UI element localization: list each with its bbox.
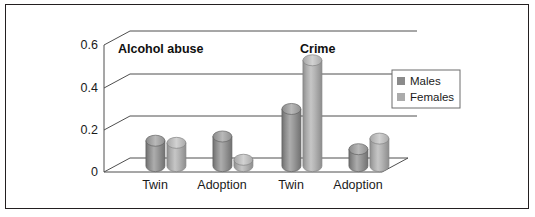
bar-cap: [349, 144, 368, 155]
gridline-0-2: [104, 116, 417, 130]
legend-swatch-males: [397, 77, 405, 85]
legend-label-females: Females: [410, 91, 454, 103]
bar-females-3: [370, 133, 389, 172]
bar-cap: [146, 135, 165, 146]
chart-figure: 0 0.2 0.4 0.6 Alcohol abuse Crime Twin A…: [0, 0, 535, 217]
bar-males-1: [213, 131, 232, 172]
y-axis-labels: 0 0.2 0.4 0.6: [81, 38, 98, 179]
annotation-alcohol-abuse: Alcohol abuse: [118, 42, 203, 56]
legend-label-males: Males: [410, 75, 441, 87]
group-annotations: Alcohol abuse Crime: [118, 42, 335, 56]
bar-males-3: [349, 144, 368, 172]
x-tick-1: Adoption: [197, 178, 246, 192]
bar-chart-canvas: 0 0.2 0.4 0.6 Alcohol abuse Crime Twin A…: [0, 0, 535, 217]
y-tick-0-2: 0.2: [81, 123, 98, 137]
bar-cap: [282, 103, 301, 114]
y-tick-0-4: 0.4: [81, 81, 98, 95]
x-tick-3: Adoption: [333, 178, 382, 192]
bar-cap: [213, 131, 232, 142]
bar-body: [303, 60, 322, 171]
bar-cap: [167, 137, 186, 148]
x-tick-2: Twin: [278, 178, 304, 192]
bar-females-0: [167, 137, 186, 171]
y-tick-0-6: 0.6: [81, 38, 98, 52]
x-axis-labels: Twin Adoption Twin Adoption: [142, 178, 383, 192]
bar-females-1: [234, 154, 253, 171]
legend-swatch-females: [397, 93, 405, 101]
legend: Males Females: [392, 70, 460, 108]
annotation-crime: Crime: [300, 42, 335, 56]
gridline-0-4: [104, 74, 417, 88]
bar-cap: [234, 154, 253, 165]
bar-body: [282, 109, 301, 172]
y-tick-0: 0: [91, 165, 98, 179]
bar-cap: [303, 55, 322, 66]
x-tick-0: Twin: [142, 178, 168, 192]
bar-females-2: [303, 55, 322, 172]
bar-males-0: [146, 135, 165, 171]
bar-males-2: [282, 103, 301, 171]
bars-layer: [146, 55, 389, 172]
bar-cap: [370, 133, 389, 144]
